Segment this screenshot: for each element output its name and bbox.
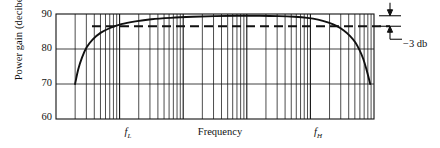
plot-canvas: [0, 0, 440, 148]
horizontal-gridlines: [56, 49, 374, 84]
power-gain-frequency-figure: Power gain (decibels) 90 80 70 60 fL Fre…: [0, 0, 440, 148]
minus-3db-dimension: [379, 3, 402, 40]
dimension-up-arrowhead: [387, 10, 392, 16]
gridlines: [75, 14, 371, 119]
plot-frame: [56, 14, 374, 119]
